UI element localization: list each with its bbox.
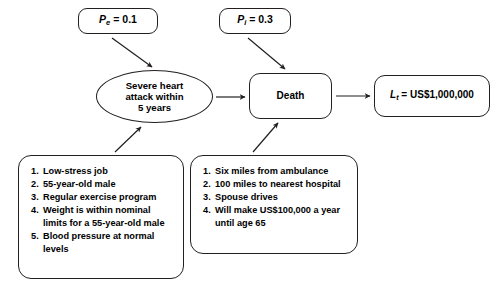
prob-impact-operator: =: [249, 13, 255, 25]
list-item: Six miles from ambulance: [203, 165, 348, 178]
list-item: Will make US$100,000 a year until age 65: [203, 204, 348, 230]
node-severe-heart-attack[interactable]: Severe heart attack within 5 years: [96, 70, 213, 123]
connector-right-conditions-to-death: [253, 123, 278, 152]
node-probability-impact[interactable]: Pi = 0.3: [219, 8, 291, 34]
list-item: Low-stress job: [31, 165, 174, 178]
loss-subscript: t: [396, 93, 398, 102]
node-total-loss-label: Lt = US$1,000,000: [390, 89, 474, 103]
list-item: Weight is within nominal limits for a 55…: [31, 204, 174, 230]
left-conditions-box[interactable]: Low-stress job 55-year-old male Regular …: [18, 155, 184, 279]
right-conditions-list: Six miles from ambulance 100 miles to ne…: [203, 165, 348, 230]
left-conditions-list: Low-stress job 55-year-old male Regular …: [31, 165, 174, 256]
prob-impact-subscript: i: [244, 19, 246, 28]
node-probability-event[interactable]: Pe = 0.1: [78, 8, 158, 34]
right-conditions-box[interactable]: Six miles from ambulance 100 miles to ne…: [190, 155, 358, 254]
prob-event-operator: =: [113, 13, 119, 25]
influence-diagram: Pe = 0.1 Pi = 0.3 Severe heart attack wi…: [0, 0, 498, 287]
connector-left-conditions-to-heart-attack: [115, 127, 141, 152]
loss-operator: =: [401, 89, 407, 100]
node-death-label: Death: [277, 90, 305, 102]
connector-pe-to-heart-attack: [112, 38, 152, 67]
loss-value: US$1,000,000: [410, 89, 474, 100]
list-item: 55-year-old male: [31, 178, 174, 191]
node-death[interactable]: Death: [249, 73, 332, 119]
node-probability-event-label: Pe = 0.1: [99, 13, 137, 28]
prob-event-value: 0.1: [122, 13, 137, 25]
node-probability-impact-label: Pi = 0.3: [237, 13, 273, 28]
list-item: Regular exercise program: [31, 191, 174, 204]
prob-impact-value: 0.3: [258, 13, 273, 25]
list-item: Blood pressure at normal levels: [31, 230, 174, 256]
list-item: Spouse drives: [203, 191, 348, 204]
prob-event-subscript: e: [106, 19, 110, 28]
list-item: 100 miles to nearest hospital: [203, 178, 348, 191]
connector-pi-to-death: [248, 38, 285, 69]
node-total-loss[interactable]: Lt = US$1,000,000: [374, 75, 490, 117]
node-severe-heart-attack-label: Severe heart attack within 5 years: [125, 80, 183, 114]
